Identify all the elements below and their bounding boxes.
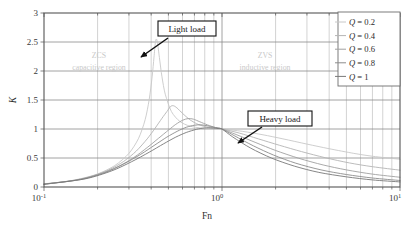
y-axis-label: K <box>8 96 18 104</box>
gain-characteristic-chart: 10-1100101 00.511.522.53 ZCScapacitive r… <box>0 0 414 225</box>
zvs-region-label: ZVS <box>258 51 273 60</box>
y-tick-label: 1.5 <box>27 95 39 105</box>
legend-item-1[interactable]: Q = 0.4 <box>349 31 376 41</box>
legend-item-0[interactable]: Q = 0.2 <box>349 17 375 27</box>
legend-item-4[interactable]: Q = 1 <box>349 72 369 82</box>
light-load-text: Light load <box>168 24 206 34</box>
y-tick-label: 3 <box>34 8 39 18</box>
legend-item-3[interactable]: Q = 0.8 <box>349 58 375 68</box>
y-tick-label: 1 <box>34 124 39 134</box>
zcs-region-sublabel: capacitive region <box>72 63 126 72</box>
y-tick-label: 0 <box>34 182 39 192</box>
x-axis-label: Fn <box>202 211 212 221</box>
heavy-load-text: Heavy load <box>259 114 301 124</box>
y-tick-label: 2.5 <box>27 37 39 47</box>
legend-box[interactable]: Q = 0.2Q = 0.4Q = 0.6Q = 0.8Q = 1 <box>335 12 400 86</box>
y-tick-label: 2 <box>34 66 39 76</box>
chart-container: 10-1100101 00.511.522.53 ZCScapacitive r… <box>0 0 414 225</box>
legend-item-2[interactable]: Q = 0.6 <box>349 44 376 54</box>
zvs-region-sublabel: inductive region <box>240 63 291 72</box>
zcs-region-label: ZCS <box>92 51 106 60</box>
y-tick-label: 0.5 <box>27 153 39 163</box>
